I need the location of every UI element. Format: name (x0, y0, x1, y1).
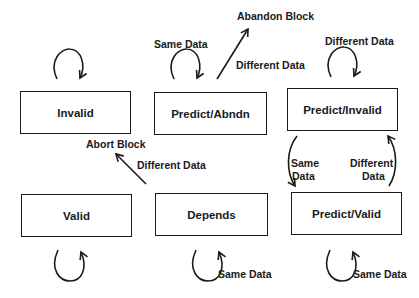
state-predict-valid: Predict/Valid (291, 192, 402, 235)
loop-predict-abndn (171, 49, 200, 79)
state-label: Depends (187, 209, 236, 221)
state-valid: Valid (21, 194, 132, 237)
different-data-label-2: Data (362, 170, 385, 182)
depends-different-data-label: Different Data (137, 159, 206, 171)
different-data-label-1: Different (350, 157, 393, 169)
abndn-different-data-label: Different Data (236, 59, 305, 71)
same-data-label-2: Data (292, 170, 315, 182)
pval-same-data-label: Same Data (353, 268, 407, 280)
same-data-label-1: Same (291, 157, 319, 169)
state-label: Predict/Invalid (303, 104, 382, 116)
state-invalid: Invalid (20, 91, 131, 134)
loop-predict-valid (327, 250, 356, 281)
state-label: Valid (63, 210, 90, 222)
state-label: Predict/Abndn (171, 108, 250, 120)
loop-invalid (54, 49, 83, 79)
arrow-abandon (217, 29, 248, 79)
state-depends: Depends (155, 193, 268, 236)
state-predict-invalid: Predict/Invalid (287, 88, 398, 131)
state-label: Predict/Valid (312, 208, 381, 220)
state-label: Invalid (57, 107, 93, 119)
pinv-different-data-label: Different Data (325, 35, 394, 47)
abort-block-label: Abort Block (86, 138, 146, 150)
abndn-same-data-label: Same Data (154, 38, 208, 50)
loop-predict-invalid (328, 47, 357, 77)
state-predict-abndn: Predict/Abndn (154, 92, 267, 135)
depends-same-data-label: Same Data (218, 268, 272, 280)
abandon-block-label: Abandon Block (237, 10, 314, 22)
loop-valid (55, 250, 84, 281)
